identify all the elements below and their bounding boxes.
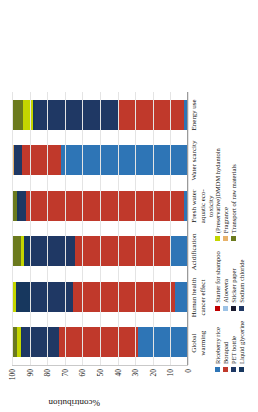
x-tick-label: Water scarcity — [190, 139, 216, 183]
bar-segment[interactable] — [12, 100, 22, 130]
legend-item[interactable]: Starter for shampoo — [214, 251, 221, 311]
legend-item[interactable]: Liquid glycerine — [238, 321, 245, 372]
stacked-bar-chart-figure: %contribution 0102030405060708090100 Glo… — [0, 0, 258, 412]
legend-swatch-icon — [239, 367, 244, 372]
legend-column: (Preservative)DMDM hydantoinFragranceTra… — [214, 148, 245, 241]
legend-item[interactable]: (Preservative)DMDM hydantoin — [214, 148, 221, 241]
x-tick-label: Human health cancer effect — [190, 276, 216, 320]
y-tick-label: 70 — [60, 369, 69, 377]
y-tick-label: 80 — [43, 369, 52, 377]
y-tick-label: 0 — [184, 369, 193, 373]
bar-segment[interactable] — [22, 145, 61, 175]
legend-item-label: Aloevera — [222, 279, 229, 303]
x-tick-label: Energy use — [190, 93, 216, 137]
gridline — [135, 92, 136, 365]
bar-segment[interactable] — [119, 100, 184, 130]
legend-column: Riceberry riceBorapadPET bottleLiquid gl… — [214, 321, 245, 372]
legend-item[interactable]: Aloevera — [222, 251, 229, 311]
y-tick-label: 40 — [113, 369, 122, 377]
bar-segment[interactable] — [14, 145, 23, 175]
legend-item-label: Liquid glycerine — [238, 321, 245, 364]
legend-swatch-icon — [239, 306, 244, 311]
gridline — [30, 92, 31, 365]
bar-segment[interactable] — [138, 327, 187, 357]
bar-segment[interactable] — [175, 282, 187, 312]
legend-item-label: Sodium chloride — [238, 260, 245, 303]
bar-segment[interactable] — [26, 191, 184, 221]
bar-segment[interactable] — [12, 236, 21, 266]
legend-item-label: (Preservative)DMDM hydantoin — [214, 148, 221, 233]
legend-item-label: Starter for shampoo — [214, 251, 221, 303]
rotated-page-wrapper: %contribution 0102030405060708090100 Glo… — [0, 0, 258, 412]
bar-segment[interactable] — [31, 236, 75, 266]
legend-item[interactable]: Riceberry rice — [214, 321, 221, 372]
bar-segment[interactable] — [59, 327, 138, 357]
gridline — [82, 92, 83, 365]
bar-segment[interactable] — [23, 100, 33, 130]
chart-legend: Riceberry riceBorapadPET bottleLiquid gl… — [214, 32, 245, 372]
bar-segment[interactable] — [171, 236, 187, 266]
gridline — [47, 92, 48, 365]
y-tick-label: 30 — [131, 369, 140, 377]
legend-item-label: Sticker paper — [230, 268, 237, 302]
legend-item-label: Transport of raw materials — [230, 164, 237, 233]
legend-swatch-icon — [223, 367, 228, 372]
legend-swatch-icon — [215, 367, 220, 372]
bar-segment[interactable] — [61, 145, 187, 175]
x-tick-label: Fresh water aquatic eco-toxicity — [190, 184, 216, 228]
y-tick-label: 50 — [96, 369, 105, 377]
legend-swatch-icon — [231, 367, 236, 372]
legend-swatch-icon — [223, 306, 228, 311]
y-axis-label: %contribution — [49, 398, 101, 408]
bar-segment[interactable] — [31, 282, 73, 312]
plot-area: 0102030405060708090100 — [12, 92, 188, 366]
legend-item[interactable]: Sodium chloride — [238, 251, 245, 311]
bar-segment[interactable] — [73, 282, 175, 312]
y-tick-label: 60 — [78, 369, 87, 377]
gridline — [170, 92, 171, 365]
legend-item[interactable]: Borapad — [222, 321, 229, 372]
y-tick-label: 90 — [25, 369, 34, 377]
legend-swatch-icon — [231, 306, 236, 311]
bar-segment[interactable] — [75, 236, 171, 266]
x-tick-label: Global warming — [190, 321, 216, 365]
bar-segment[interactable] — [22, 327, 59, 357]
legend-swatch-icon — [215, 236, 220, 241]
gridline — [153, 92, 154, 365]
legend-item-label: PET bottle — [230, 336, 237, 364]
legend-column: Starter for shampooAloeveraSticker paper… — [214, 251, 245, 311]
gridline — [12, 92, 13, 365]
y-tick-label: 20 — [148, 369, 157, 377]
y-tick-label: 100 — [8, 369, 17, 380]
legend-swatch-icon — [215, 306, 220, 311]
bar-segment[interactable] — [19, 191, 26, 221]
gridline — [118, 92, 119, 365]
legend-item[interactable]: Transport of raw materials — [230, 148, 237, 241]
y-tick-label: 10 — [166, 369, 175, 377]
legend-item-label: Borapad — [222, 342, 229, 364]
legend-item[interactable]: Fragrance — [222, 148, 229, 241]
x-axis-tick-labels: Global warmingHuman health cancer effect… — [190, 92, 216, 366]
gridline — [65, 92, 66, 365]
gridline — [100, 92, 101, 365]
legend-item-label: Fragrance — [222, 207, 229, 233]
legend-item[interactable]: PET bottle — [230, 321, 237, 372]
legend-swatch-icon — [223, 236, 228, 241]
legend-swatch-icon — [231, 236, 236, 241]
legend-item-label: Riceberry rice — [214, 327, 221, 364]
gridline — [188, 92, 189, 365]
x-tick-label: Acidification — [190, 230, 216, 274]
legend-item[interactable]: Sticker paper — [230, 251, 237, 311]
